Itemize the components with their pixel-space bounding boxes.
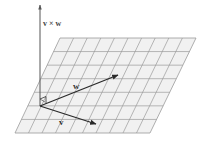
cross-product-label: v × w — [43, 19, 62, 28]
cross-product-diagram: v × w w v — [0, 0, 203, 146]
vector-w-label: w — [73, 81, 80, 91]
vector-v-label: v — [59, 117, 64, 127]
plane-grid — [15, 38, 196, 133]
